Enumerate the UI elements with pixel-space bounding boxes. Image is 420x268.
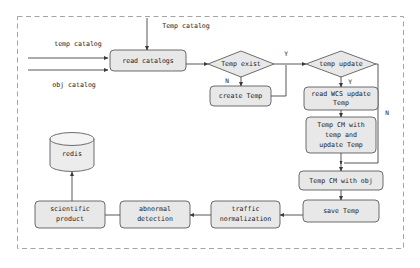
node-read-catalogs-label: read catalogs	[122, 57, 174, 65]
node-save-temp-label: save Temp	[323, 207, 359, 215]
node-temp-cm-with-temp-label-1: Temp CM with	[317, 121, 365, 129]
node-traffic-normalization-label-1: traffic	[232, 205, 260, 213]
node-create-temp-label: create Temp	[219, 92, 263, 100]
label-top-temp-catalog: Temp catalog	[162, 22, 210, 30]
node-read-wcs-update-temp[interactable]: read WCS update Temp	[304, 87, 378, 110]
branch-label-temp-update-yes: Y	[348, 78, 352, 85]
branch-label-temp-exist-yes: Y	[284, 50, 288, 57]
node-scientific-product-label-1: scientific	[50, 205, 90, 213]
node-redis[interactable]: redis	[50, 133, 94, 172]
branch-label-temp-update-no: N	[385, 109, 389, 116]
node-abnormal-detection[interactable]: abnormal detection	[120, 201, 190, 228]
node-scientific-product[interactable]: scientific product	[35, 201, 105, 228]
node-save-temp[interactable]: save Temp	[303, 200, 379, 222]
node-abnormal-detection-label-2: detection	[137, 215, 173, 223]
node-temp-cm-with-temp-label-3: update Temp	[319, 141, 363, 149]
label-left-temp-catalog: temp catalog	[54, 40, 102, 48]
node-abnormal-detection-label-1: abnormal	[139, 205, 171, 213]
edge-create-temp-back-to-main	[271, 65, 286, 96]
node-redis-label: redis	[62, 150, 82, 158]
node-temp-cm-with-temp-label-2: temp and	[325, 131, 357, 139]
node-read-catalogs[interactable]: read catalogs	[110, 50, 186, 71]
label-left-obj-catalog: obj catalog	[52, 81, 96, 89]
node-temp-exist-label: Temp exist	[221, 60, 261, 68]
node-temp-exist[interactable]: Temp exist	[208, 51, 274, 77]
node-create-temp[interactable]: create Temp	[210, 86, 271, 106]
node-temp-update-label: temp update	[319, 60, 363, 68]
node-temp-update[interactable]: temp update	[306, 51, 376, 77]
node-temp-cm-with-temp[interactable]: Temp CM with temp and update Temp	[306, 117, 376, 153]
node-temp-cm-with-obj[interactable]: Temp CM with obj	[299, 171, 383, 190]
node-scientific-product-label-2: product	[56, 215, 84, 223]
node-temp-cm-with-obj-label: Temp CM with obj	[309, 177, 373, 185]
flowchart-canvas: read catalogs Temp exist create Temp tem…	[0, 0, 420, 268]
branch-label-temp-exist-no: N	[225, 77, 229, 84]
node-redis-top	[50, 133, 94, 146]
node-traffic-normalization[interactable]: traffic normalization	[211, 201, 280, 228]
node-traffic-normalization-label-2: normalization	[220, 215, 272, 223]
node-read-wcs-update-temp-label-2: Temp	[333, 99, 349, 107]
node-read-wcs-update-temp-label-1: read WCS update	[311, 90, 371, 98]
flowchart-diagram: read catalogs Temp exist create Temp tem…	[0, 0, 420, 268]
